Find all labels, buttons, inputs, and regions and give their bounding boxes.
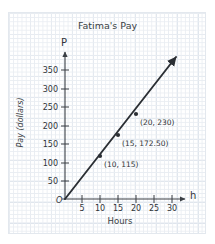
x-axis-symbol: h [190,190,196,201]
graph-screenshot: Fatima's Pay P h O Pay (dollars) Hours 5… [0,0,215,244]
data-point-marker [134,112,138,116]
origin-label: O [56,196,62,205]
x-tick-label-15: 15 [108,204,128,213]
y-tick-label-150: 150 [36,140,58,149]
data-point-markers [98,112,138,158]
data-line-series [65,57,176,199]
data-point-label-20-230: (20, 230) [140,118,174,127]
x-tick-label-20: 20 [126,204,146,213]
y-axis [61,52,69,200]
data-point-label-10-115: (10, 115) [104,160,138,169]
x-tick-label-5: 5 [72,204,92,213]
y-tick-label-250: 250 [36,103,58,112]
chart-title: Fatima's Pay [0,20,215,31]
data-point-label-15-172-50: (15, 172.50) [122,139,168,148]
data-point-marker [98,154,102,158]
y-tick-label-50: 50 [36,177,58,186]
y-axis-symbol: P [61,37,67,48]
y-axis-title: Pay (dollars) [16,83,25,163]
x-tick-label-10: 10 [90,204,110,213]
y-tick-label-300: 300 [36,85,58,94]
x-tick-label-25: 25 [144,204,164,213]
y-tick-label-100: 100 [36,159,58,168]
x-axis-title: Hours [60,216,180,226]
x-axis [62,195,185,203]
y-tick-label-350: 350 [36,66,58,75]
x-tick-label-30: 30 [162,204,182,213]
y-tick-label-200: 200 [36,122,58,131]
data-point-marker [116,133,120,137]
